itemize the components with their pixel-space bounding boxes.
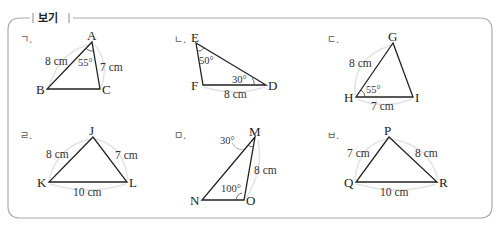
item-label: ㄱ.: [20, 34, 32, 45]
vertex-label: C: [102, 82, 111, 97]
side-length-label: 7 cm: [100, 61, 123, 73]
vertex-label: N: [190, 193, 200, 208]
vertex-label: H: [344, 90, 353, 105]
vertex-label: F: [191, 78, 198, 93]
side-length-label: 8 cm: [224, 88, 247, 100]
angle-label: 30°: [220, 135, 235, 146]
side-length-label: 8 cm: [46, 148, 69, 160]
triangle: [356, 137, 437, 182]
box-title: 보기: [38, 11, 58, 25]
side-length-label: 7 cm: [115, 149, 138, 161]
item-label: ㅁ.: [174, 130, 186, 141]
vertex-label: O: [246, 193, 255, 208]
item-6-triangle-pqr: ㅂ. P Q R 7 cm 8 cm 10 cm: [327, 123, 448, 198]
side-length-label: 10 cm: [73, 186, 101, 198]
item-4-triangle-jkl: ㄹ. J K L 8 cm 7 cm 10 cm: [20, 123, 138, 198]
side-length-label: 8 cm: [349, 57, 372, 69]
vertex-label: I: [415, 90, 419, 105]
side-length-label: 8 cm: [45, 55, 68, 67]
angle-mark: [198, 48, 205, 51]
vertex-label: R: [439, 175, 448, 190]
vertex-label: K: [37, 175, 47, 190]
angle-label: 100°: [221, 183, 241, 194]
vertex-label: D: [268, 78, 277, 93]
item-2-triangle-efd: ㄴ. E F D 8 cm 50° 30°: [174, 30, 277, 100]
item-1-triangle-abc: ㄱ. A B C 8 cm 7 cm 55°: [20, 28, 123, 97]
side-length-label: 8 cm: [254, 164, 277, 176]
side-length-label: 10 cm: [380, 186, 408, 198]
angle-mark: [236, 193, 242, 200]
side-arc: [355, 139, 387, 180]
angle-mark: [361, 90, 365, 97]
triangle: [356, 43, 413, 97]
vertex-label: A: [87, 28, 97, 43]
side-length-label: 8 cm: [415, 147, 438, 159]
item-3-triangle-ghi: ㄷ. G H I 8 cm 7 cm 55°: [327, 29, 419, 112]
angle-label: 30°: [232, 74, 247, 85]
vertex-label: M: [249, 124, 261, 139]
angle-label: 55°: [78, 57, 93, 68]
angle-mark: [252, 78, 254, 85]
vertex-label: G: [388, 29, 397, 44]
vertex-label: P: [384, 123, 391, 138]
side-length-label: 7 cm: [371, 100, 394, 112]
angle-label: 55°: [366, 84, 381, 95]
item-label: ㄷ.: [327, 34, 339, 45]
vertex-label: L: [129, 175, 137, 190]
vertex-label: B: [36, 82, 45, 97]
vertex-label: Q: [344, 175, 354, 190]
item-label: ㄴ.: [174, 34, 186, 45]
vertex-label: J: [89, 123, 94, 138]
angle-label: 50°: [199, 55, 214, 66]
item-label: ㅂ.: [327, 130, 339, 141]
side-length-label: 7 cm: [347, 147, 370, 159]
example-box-figure: 보기 ㄱ. A B C 8 cm 7 cm 55° ㄴ. E F D 8 cm …: [0, 0, 501, 227]
item-label: ㄹ.: [20, 130, 32, 141]
vertex-label: E: [191, 30, 199, 45]
item-5-triangle-mno: ㅁ. M N O 8 cm 30° 100°: [174, 124, 277, 208]
